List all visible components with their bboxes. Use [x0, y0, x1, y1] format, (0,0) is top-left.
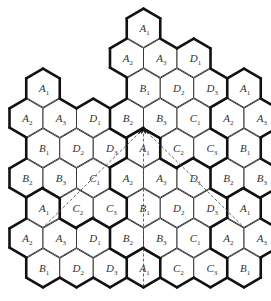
hex-cluster-diagram: A1A2A3D1A1B1D2D3A1A2A3D1B2B3C1A2A3B1D2D3…	[0, 0, 271, 301]
